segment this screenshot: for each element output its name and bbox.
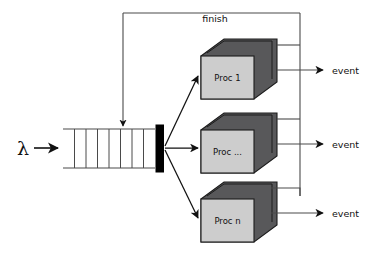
event-output-2-label: event [332, 139, 359, 150]
processor-1[interactable]: Proc 1 [201, 39, 277, 99]
queue-cell-dividers [75, 129, 144, 168]
dispatch-arrows [165, 76, 198, 218]
dispatch-arrow-to-processor-1 [165, 76, 198, 146]
processor-n[interactable]: Proc n [201, 182, 277, 242]
dispatch-arrow-to-processor-n [165, 150, 198, 218]
processor-n-label: Proc n [214, 216, 240, 226]
event-output-3-label: event [332, 208, 359, 219]
event-output-arrows [271, 70, 323, 213]
server-dispatch-bar [156, 125, 165, 173]
lambda-symbol: λ [17, 137, 29, 159]
diagram-canvas: finish λ [0, 0, 374, 261]
queueing-system-diagram: finish λ [0, 0, 374, 261]
event-output-1-label: event [332, 65, 359, 76]
finish-label: finish [202, 13, 228, 24]
processor-ellipsis[interactable]: Proc ... [201, 113, 277, 173]
processor-ellipsis-label: Proc ... [213, 147, 242, 157]
processor-1-label: Proc 1 [214, 73, 240, 83]
fifo-queue [63, 129, 155, 168]
